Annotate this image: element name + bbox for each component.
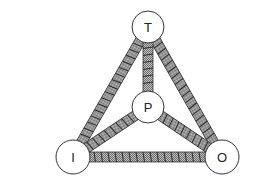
- node-P-label: P: [144, 100, 153, 115]
- node-P: P: [132, 91, 164, 123]
- node-I-label: I: [71, 150, 75, 165]
- node-I: I: [56, 140, 90, 174]
- node-O: O: [205, 140, 239, 174]
- node-O-label: O: [217, 150, 227, 165]
- edge-T-I: [69, 25, 153, 160]
- node-T-label: T: [144, 20, 152, 35]
- edge-I-O: [73, 152, 222, 162]
- edge-T-O: [144, 25, 227, 160]
- diagram-canvas: TPIO: [0, 0, 256, 188]
- node-T: T: [132, 11, 164, 43]
- nodes-group: TPIO: [56, 11, 239, 174]
